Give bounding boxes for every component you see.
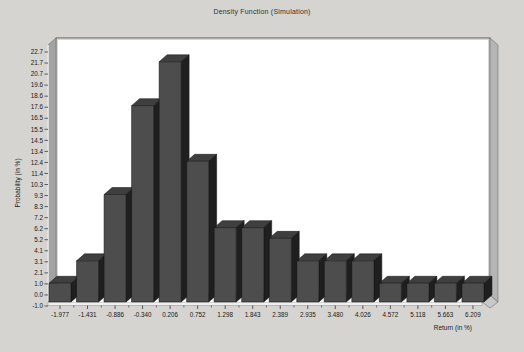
bar-front-face	[407, 283, 429, 302]
y-tick-label: 21.7	[31, 59, 44, 66]
bar	[379, 276, 409, 302]
x-tick-label: 4.572	[382, 311, 398, 318]
floor-front-face	[48, 302, 482, 306]
bar-front-face	[434, 283, 456, 302]
bar	[407, 276, 437, 302]
density-3d-bar-chart: 22.721.720.719.618.617.616.515.514.513.4…	[0, 0, 524, 352]
bar	[159, 55, 189, 302]
y-tick-label: 15.5	[31, 126, 44, 133]
bar-front-face	[214, 228, 236, 302]
y-tick-label: 12.4	[31, 159, 44, 166]
y-tick-label: 7.2	[34, 214, 43, 221]
bar-front-face	[462, 283, 484, 302]
bar-front-face	[242, 228, 264, 302]
y-tick-label: 6.2	[34, 225, 43, 232]
simulation-chart-window: Density Function (Simulation) 22.721.720…	[0, 0, 524, 352]
bar-front-face	[49, 283, 71, 302]
bar-front-face	[159, 62, 181, 302]
x-tick-label: 3.480	[327, 311, 343, 318]
right-wall	[490, 38, 498, 302]
y-tick-label: 22.7	[31, 48, 44, 55]
bar-front-face	[297, 261, 319, 302]
x-tick-label: 5.663	[438, 311, 454, 318]
x-tick-label: 2.935	[300, 311, 316, 318]
x-tick-label: 2.389	[272, 311, 288, 318]
bar	[434, 276, 464, 302]
bar	[462, 276, 492, 302]
bar-front-face	[269, 238, 291, 302]
bar-front-face	[77, 261, 99, 302]
bar-front-face	[379, 283, 401, 302]
x-tick-label: -0.340	[134, 311, 152, 318]
left-wall	[48, 38, 56, 302]
bar	[49, 276, 79, 302]
x-tick-label: -1.431	[79, 311, 97, 318]
y-tick-label: 11.4	[31, 170, 43, 177]
y-tick-label: 13.4	[31, 148, 44, 155]
x-tick-label: 1.843	[245, 311, 261, 318]
bar	[269, 231, 299, 302]
bar	[297, 254, 327, 302]
bar	[352, 254, 382, 302]
x-tick-label: 0.206	[162, 311, 178, 318]
bar-front-face	[187, 161, 209, 302]
bar-front-face	[132, 106, 154, 302]
y-tick-label: 5.2	[34, 236, 43, 243]
x-tick-label: 4.026	[355, 311, 371, 318]
y-tick-label: -1.0	[32, 302, 43, 309]
y-tick-label: 8.3	[34, 203, 43, 210]
x-tick-label: 0.752	[190, 311, 206, 318]
bar	[187, 154, 217, 302]
y-tick-label: 17.6	[31, 103, 44, 110]
y-tick-label: 18.6	[31, 92, 44, 99]
bar	[214, 221, 244, 302]
y-tick-label: 3.1	[34, 258, 43, 265]
y-tick-label: 0.0	[34, 291, 43, 298]
bar-front-face	[324, 261, 346, 302]
y-tick-label: 1.0	[34, 280, 43, 287]
bar	[324, 254, 354, 302]
y-tick-label: 4.1	[34, 247, 43, 254]
y-axis-title: Probability (in %)	[14, 128, 24, 238]
bar-front-face	[104, 194, 126, 302]
x-axis-title: Return (in %)	[352, 324, 472, 331]
x-tick-label: -0.886	[106, 311, 124, 318]
x-tick-label: -1.977	[51, 311, 69, 318]
bar-front-face	[352, 261, 374, 302]
y-tick-label: 20.7	[31, 70, 44, 77]
x-tick-label: 6.209	[465, 311, 481, 318]
bar	[242, 221, 272, 302]
bar	[104, 187, 134, 302]
x-tick-label: 5.118	[410, 311, 426, 318]
y-tick-label: 16.5	[31, 114, 44, 121]
bar	[77, 254, 107, 302]
y-tick-label: 10.3	[31, 181, 44, 188]
y-tick-label: 9.3	[34, 192, 43, 199]
y-tick-label: 14.5	[31, 137, 44, 144]
y-tick-label: 19.6	[31, 81, 44, 88]
x-tick-label: 1.298	[217, 311, 233, 318]
y-tick-label: 2.1	[34, 269, 43, 276]
bar	[132, 99, 162, 302]
